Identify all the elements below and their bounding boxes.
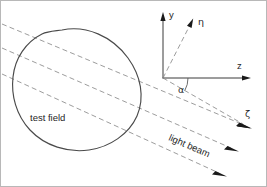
alpha-angle-arc	[185, 78, 188, 91]
light-beam-ray-bottom	[2, 74, 219, 173]
test-field-outline	[13, 29, 142, 151]
eta-axis-arrowhead	[187, 19, 193, 29]
light-beam-ray-top	[2, 24, 244, 125]
y-axis-label: y	[169, 9, 174, 20]
z-axis-label: z	[237, 60, 242, 71]
zeta-axis-line	[163, 78, 243, 124]
light-beam-label: light beam	[167, 132, 212, 160]
alpha-angle-label: α	[178, 84, 184, 95]
beam-arrowhead-middle	[224, 146, 239, 152]
test-field-label: test field	[30, 112, 65, 123]
beam-arrowhead-bottom	[212, 171, 227, 177]
light-beam-ray-middle	[2, 48, 231, 148]
eta-axis-line	[163, 25, 190, 78]
y-axis-arrowhead	[160, 12, 165, 21]
z-axis-arrowhead	[242, 75, 251, 80]
eta-axis-label: η	[198, 16, 204, 27]
light-beam-arrowheads	[212, 123, 252, 177]
zeta-axis-arrowhead	[236, 123, 251, 129]
figure-canvas: y z η ζ α test field light beam	[0, 0, 267, 187]
figure-border	[1, 1, 267, 187]
zeta-axis-label: ζ	[245, 108, 250, 119]
diagram-svg: y z η ζ α test field light beam	[0, 0, 267, 187]
